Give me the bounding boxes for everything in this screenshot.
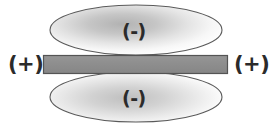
charge-diagram-figure: (+) (+) (-) (-): [0, 0, 272, 127]
negative-charge-label-bottom: (-): [122, 89, 146, 108]
positive-charge-label-left: (+): [8, 54, 43, 75]
negative-charge-label-top: (-): [122, 22, 146, 41]
positive-charge-label-right: (+): [234, 54, 269, 75]
conductor-bar: [44, 56, 228, 74]
